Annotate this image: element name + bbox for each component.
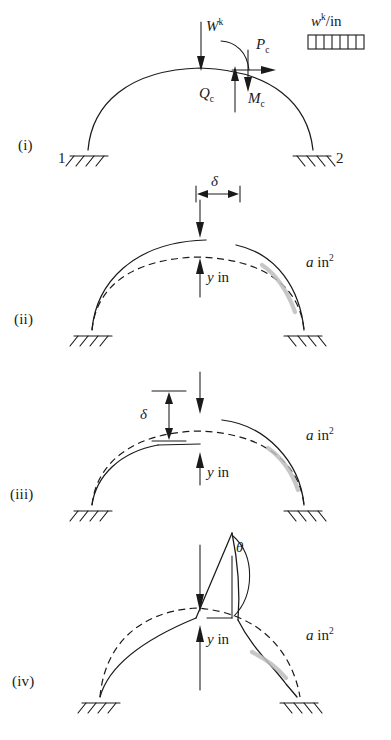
label-crown-thrust-P: Pc bbox=[256, 36, 269, 55]
label-rise-y-iv: y in bbox=[207, 631, 229, 648]
arch-buckling-figure: (i) (ii) (iii) (iv) 1 2 Wk Pc Qc Mc wk/i… bbox=[0, 0, 391, 740]
label-rise-y-ii: y in bbox=[207, 269, 229, 286]
label-crown-shear-Q: Qc bbox=[199, 85, 214, 104]
arch-deformed-iii-right bbox=[222, 420, 304, 505]
label-area-a-ii: a in2 bbox=[306, 253, 334, 271]
support-right-i bbox=[293, 156, 335, 166]
support-left-i bbox=[66, 156, 108, 166]
label-delta-ii: δ bbox=[211, 173, 218, 190]
panel-label-iv: (iv) bbox=[12, 673, 34, 690]
delta-dimension-iii bbox=[152, 391, 186, 441]
panel-iv-graphics bbox=[78, 533, 322, 713]
support-right-iii bbox=[284, 511, 326, 521]
support-left-iv bbox=[78, 703, 120, 713]
panel-label-i: (i) bbox=[18, 137, 33, 154]
arch-deformed-iii-crown bbox=[158, 444, 200, 445]
section-shade-ii bbox=[262, 265, 295, 312]
rise-arrow-iii bbox=[196, 452, 204, 485]
support-left-ii bbox=[70, 336, 112, 346]
label-distributed-load-legend: wk/in bbox=[311, 12, 342, 30]
rise-arrow-ii bbox=[196, 258, 204, 297]
label-area-a-iv: a in2 bbox=[306, 626, 334, 644]
node-label-2: 2 bbox=[336, 150, 344, 167]
label-crown-moment-M: Mc bbox=[248, 90, 265, 109]
force-arrow-W-i bbox=[197, 22, 205, 71]
label-applied-load-W: Wk bbox=[206, 17, 223, 35]
label-area-a-iii: a in2 bbox=[306, 426, 334, 444]
arch-collapsed-iv-left bbox=[100, 618, 196, 697]
delta-dimension-ii bbox=[196, 186, 240, 202]
arch-curve-i bbox=[88, 68, 313, 150]
moment-arc-i bbox=[221, 41, 249, 70]
support-right-ii bbox=[284, 336, 326, 346]
force-arrow-W-ii bbox=[196, 200, 204, 238]
arch-deformed-iii-left bbox=[92, 445, 158, 505]
support-left-iii bbox=[70, 511, 112, 521]
force-arrow-W-iii bbox=[196, 372, 204, 414]
panel-label-iii: (iii) bbox=[10, 486, 34, 503]
label-kink-angle-theta: θ bbox=[236, 539, 243, 556]
panel-ii-graphics bbox=[70, 186, 326, 346]
section-shade-iv bbox=[252, 652, 286, 678]
arch-deformed-ii bbox=[92, 240, 206, 330]
arch-collapsed-iv-right bbox=[238, 620, 297, 697]
arch-deformed-ii-right bbox=[236, 245, 304, 330]
rise-arrow-iv bbox=[196, 625, 204, 690]
label-rise-y-iii: y in bbox=[207, 464, 229, 481]
distributed-load-box-i bbox=[308, 35, 364, 49]
label-delta-iii: δ bbox=[140, 406, 147, 423]
panel-i-graphics bbox=[66, 22, 364, 166]
panel-iii-graphics bbox=[70, 372, 326, 521]
support-right-iv bbox=[280, 703, 322, 713]
node-label-1: 1 bbox=[58, 150, 66, 167]
panel-label-ii: (ii) bbox=[14, 311, 33, 328]
